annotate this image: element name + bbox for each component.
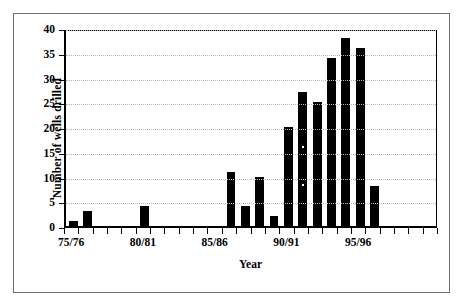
x-axis-tick-mark xyxy=(222,228,223,234)
x-axis-tick-mark xyxy=(279,228,280,234)
bar xyxy=(255,177,264,227)
x-axis-tick-mark xyxy=(64,228,65,234)
bar xyxy=(341,38,350,226)
x-axis-tick-mark xyxy=(423,228,424,234)
x-axis-tick-mark xyxy=(164,228,165,234)
x-axis-tick-label: 90/91 xyxy=(256,236,316,248)
bar xyxy=(356,48,365,226)
x-axis-tick-mark xyxy=(294,228,295,234)
y-axis-tick-labels: 0510152025303540 xyxy=(0,0,62,300)
gridline xyxy=(66,55,436,56)
bar xyxy=(284,127,293,226)
x-axis-tick-mark xyxy=(179,228,180,234)
gridline xyxy=(66,129,436,130)
x-axis-tick-mark xyxy=(251,228,252,234)
x-axis-tick-mark xyxy=(394,228,395,234)
x-axis-tick-mark xyxy=(136,228,137,234)
x-axis-tick-mark xyxy=(193,228,194,234)
gridline xyxy=(66,179,436,180)
x-axis-tick-mark xyxy=(107,228,108,234)
x-axis-tick-mark xyxy=(337,228,338,234)
x-axis-tick-label: 95/96 xyxy=(328,236,388,248)
bar xyxy=(370,186,379,226)
bar xyxy=(69,221,78,226)
bar xyxy=(327,58,336,226)
gridline xyxy=(66,30,436,31)
scan-artifact xyxy=(302,146,304,148)
x-axis-tick-mark xyxy=(351,228,352,234)
x-axis-title: Year xyxy=(64,258,437,270)
x-axis-tick-mark xyxy=(207,228,208,234)
gridline xyxy=(66,80,436,81)
bar xyxy=(83,211,92,226)
scan-artifact xyxy=(302,184,304,186)
plot-area xyxy=(64,30,437,228)
bar xyxy=(298,92,307,226)
x-axis-tick-label: 85/86 xyxy=(185,236,245,248)
y-axis-tick-label: 20 xyxy=(15,123,55,133)
x-axis-tick-mark xyxy=(93,228,94,234)
x-axis-tick-mark xyxy=(308,228,309,234)
bar xyxy=(313,102,322,226)
x-axis-tick-mark xyxy=(365,228,366,234)
x-axis-tick-mark xyxy=(121,228,122,234)
y-axis-tick-label: 25 xyxy=(15,98,55,108)
x-axis-tick-mark xyxy=(408,228,409,234)
bar xyxy=(270,216,279,226)
bar xyxy=(227,172,236,226)
x-axis-tick-mark xyxy=(236,228,237,234)
gridline xyxy=(66,203,436,204)
x-axis-tick-mark xyxy=(380,228,381,234)
x-axis-tick-mark xyxy=(78,228,79,234)
y-axis-tick-label: 35 xyxy=(15,49,55,59)
y-axis-tick-label: 15 xyxy=(15,148,55,158)
x-axis-tick-mark xyxy=(437,228,438,234)
x-axis-tick-mark xyxy=(322,228,323,234)
gridline xyxy=(66,104,436,105)
y-axis-tick-label: 10 xyxy=(15,173,55,183)
bar xyxy=(140,206,149,226)
y-axis-tick-label: 30 xyxy=(15,74,55,84)
chart-figure: Number of wells drilled 0510152025303540… xyxy=(0,0,461,300)
x-axis-tick-mark xyxy=(150,228,151,234)
x-axis-tick-label: 80/81 xyxy=(113,236,173,248)
x-axis-tick-mark xyxy=(265,228,266,234)
gridline xyxy=(66,154,436,155)
y-axis-tick-label: 40 xyxy=(15,24,55,34)
x-axis-tick-label: 75/76 xyxy=(41,236,101,248)
y-axis-tick-label: 0 xyxy=(15,222,55,232)
y-axis-tick-label: 5 xyxy=(15,197,55,207)
bar xyxy=(241,206,250,226)
